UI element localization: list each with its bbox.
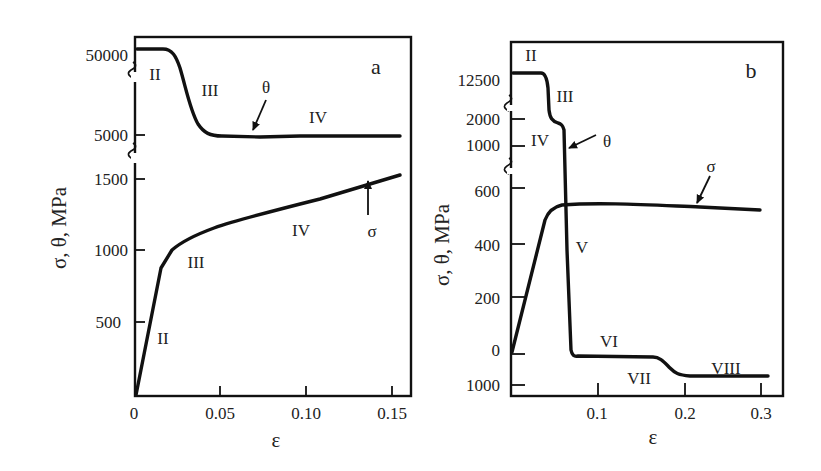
y-tick-label: 5000 <box>94 126 128 145</box>
stage-label: III <box>188 253 205 272</box>
panel-letter: a <box>371 54 381 79</box>
panel-b-frame <box>511 42 783 396</box>
panel-letter: b <box>746 58 757 83</box>
y-tick-label: 2000 <box>466 110 500 129</box>
sigma-label: σ <box>367 222 376 241</box>
y-tick-label: 1000 <box>466 376 500 395</box>
y-axis-label: σ, θ, MPa <box>47 186 71 269</box>
y-tick-label: 500 <box>96 313 122 332</box>
theta-label: θ <box>262 78 270 97</box>
stage-label: IV <box>309 108 328 127</box>
theta-arrow-icon <box>569 135 596 148</box>
stage-label: II <box>157 329 169 348</box>
theta-label: θ <box>603 132 611 151</box>
sigma-arrow-icon <box>697 176 710 203</box>
x-axis-label: ε <box>272 428 281 452</box>
x-tick-label: 0 <box>130 404 139 423</box>
y-tick-label: 12500 <box>458 71 501 90</box>
stage-label: IV <box>292 221 311 240</box>
figure: 50000 5000 1500 1000 500 0 0.05 0.10 0.1… <box>0 0 821 471</box>
y-tick-label: 1500 <box>94 170 128 189</box>
x-tick-label: 0.2 <box>674 404 695 423</box>
stage-label: IV <box>531 131 550 150</box>
y-tick-label: 400 <box>475 236 501 255</box>
x-tick-label: 0.10 <box>291 404 321 423</box>
sigma-label: σ <box>706 157 715 176</box>
stage-label: III <box>557 87 574 106</box>
x-tick-label: 0.15 <box>377 404 407 423</box>
y-axis-label: σ, θ, MPa <box>430 203 454 286</box>
stage-label: III <box>202 81 219 100</box>
stage-label: VI <box>600 332 618 351</box>
sigma-curve <box>512 204 760 352</box>
stage-label: VIII <box>711 359 741 378</box>
stage-label: V <box>576 238 589 257</box>
x-tick-label: 0.05 <box>205 404 235 423</box>
x-axis-label: ε <box>649 425 658 449</box>
theta-arrow-icon <box>253 100 266 130</box>
y-tick-label: 1000 <box>94 241 128 260</box>
x-tick-label: 0.1 <box>586 404 607 423</box>
y-tick-label: 50000 <box>86 46 129 65</box>
panel-a: 50000 5000 1500 1000 500 0 0.05 0.10 0.1… <box>47 37 411 452</box>
y-tick-label: 0 <box>492 341 501 360</box>
stage-label: II <box>149 65 161 84</box>
theta-curve <box>513 73 768 376</box>
stage-label: II <box>525 46 537 65</box>
panel-b: 12500 2000 1000 600 400 200 0 1000 0.1 0… <box>430 42 783 449</box>
panel-a-frame <box>135 37 411 396</box>
x-tick-label: 0.3 <box>750 404 771 423</box>
y-tick-label: 600 <box>475 182 501 201</box>
y-tick-label: 200 <box>475 289 501 308</box>
sigma-curve <box>136 175 400 395</box>
y-tick-label: 1000 <box>466 136 500 155</box>
stage-label: VII <box>627 369 651 388</box>
